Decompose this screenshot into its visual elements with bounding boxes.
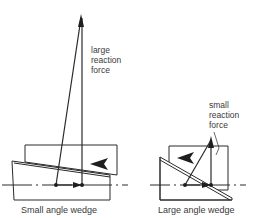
small-angle-wedge-caption: Small angle wedge: [21, 205, 97, 215]
small-reaction-force-label: small reaction force: [209, 100, 239, 130]
arrowhead-icon: [208, 136, 214, 148]
pivot-dot-icon: [209, 183, 213, 187]
large-angle-wedge-figure: [150, 132, 246, 200]
large-angle-wedge-caption: Large angle wedge: [158, 205, 235, 215]
pivot-dot-icon: [54, 183, 58, 187]
large-reaction-force-label: large reaction force: [91, 45, 121, 75]
pivot-dot-icon: [183, 183, 187, 187]
arrowhead-icon: [78, 14, 84, 27]
pivot-dot-icon: [80, 183, 84, 187]
